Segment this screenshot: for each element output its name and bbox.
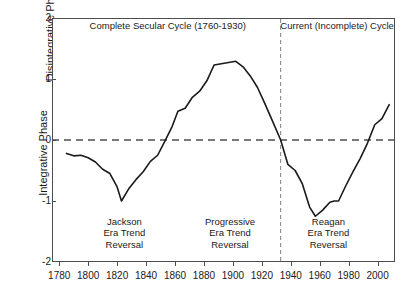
annotation-complete-cycle-text: Complete Secular Cycle (1760-1930) <box>90 20 246 31</box>
secular-cycle-line <box>66 61 389 216</box>
annotation-jackson-reversal: Jackson Era Trend Reversal <box>104 215 146 250</box>
x-tick-mark <box>291 262 292 266</box>
annotation-progressive-line2: Era Trend <box>205 227 255 239</box>
x-tick-mark <box>204 262 205 266</box>
x-tick-mark <box>233 262 234 266</box>
x-tick-mark <box>262 262 263 266</box>
annotation-reagan-line2: Era Trend <box>308 227 350 239</box>
annotation-reagan-line1: Reagan <box>308 215 350 227</box>
annotation-progressive-line3: Reversal <box>205 238 255 250</box>
annotation-jackson-line1: Jackson <box>104 215 146 227</box>
y-tick-label: 1 <box>31 74 51 84</box>
annotation-complete-cycle: Complete Secular Cycle (1760-1930) <box>90 20 246 32</box>
y-tick-label: 0 <box>31 135 51 145</box>
y-tick-label: 2 <box>31 13 51 23</box>
y-axis-label-disintegrative: Disintegrative Phase <box>0 18 26 140</box>
annotation-progressive-reversal: Progressive Era Trend Reversal <box>205 215 255 250</box>
x-tick-mark <box>146 262 147 266</box>
annotation-reagan-line3: Reversal <box>308 238 350 250</box>
annotation-progressive-line1: Progressive <box>205 215 255 227</box>
annotation-jackson-line2: Era Trend <box>104 227 146 239</box>
x-tick-mark <box>88 262 89 266</box>
x-tick-mark <box>378 262 379 266</box>
chart-figure: Disintegrative Phase Integrative Phase 2… <box>0 0 409 296</box>
y-tick-label: -1 <box>31 196 51 206</box>
x-tick-label: 2000 <box>358 271 398 281</box>
x-tick-mark <box>59 262 60 266</box>
x-tick-mark <box>320 262 321 266</box>
annotation-reagan-reversal: Reagan Era Trend Reversal <box>308 215 350 250</box>
x-tick-mark <box>117 262 118 266</box>
x-tick-mark <box>349 262 350 266</box>
y-tick-label: -2 <box>31 257 51 267</box>
annotation-jackson-line3: Reversal <box>104 238 146 250</box>
x-tick-mark <box>175 262 176 266</box>
annotation-current-cycle-text: Current (Incomplete) Cycle <box>280 20 394 31</box>
y-axis-label-integrative: Integrative Phase <box>0 140 26 262</box>
annotation-current-cycle: Current (Incomplete) Cycle <box>280 20 394 32</box>
